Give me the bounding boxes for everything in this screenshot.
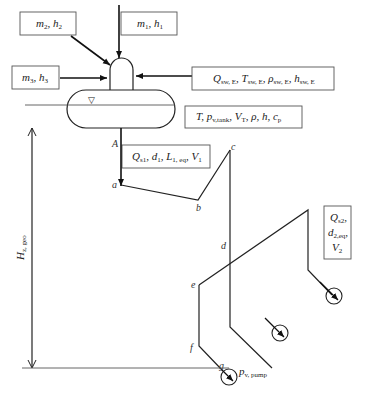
tank (67, 90, 175, 128)
tank-params-box: T, pv,tank, VT, ρ, h, cp (185, 106, 302, 128)
outlet-branch-upper (320, 282, 342, 304)
point-label-d: d (221, 240, 227, 251)
water-level-symbol: ▽ (88, 95, 95, 105)
outlet-branch-d (265, 318, 288, 341)
pipe-e-d-branch (199, 210, 332, 295)
point-label-a: a (112, 179, 117, 190)
pipe-e-f-g (199, 285, 222, 370)
tank-dome (110, 58, 133, 90)
inlet-box-m2: m2, h2 (20, 12, 76, 35)
svg-text:T, pv,tank, VT, ρ, h, cp: T, pv,tank, VT, ρ, h, cp (196, 110, 282, 124)
seawater-params-box: Qsw, E, Tsw, E, ρsw, E, hsw, E (192, 67, 334, 90)
outlet-pump-g (221, 369, 237, 385)
arrow-m2 (71, 36, 110, 65)
point-label-c: c (231, 141, 236, 152)
inlet-box-m3: m3, h3 (12, 66, 59, 89)
point-label-g: g (219, 360, 224, 371)
pipe1-params-box: Qs1, d1, L1, eq, V1 (122, 145, 210, 168)
point-label-e: e (191, 279, 196, 290)
pipe2-params-box: Qs2, d2,eq, V2 (324, 206, 351, 259)
inlet-box-m1: m1, h1 (121, 12, 177, 35)
pump-pressure-label: pv, pump (238, 365, 267, 379)
point-label-f: f (190, 342, 194, 353)
height-label: Hz, geo (14, 235, 28, 261)
point-label-A: A (111, 138, 119, 149)
point-label-b: b (196, 202, 201, 213)
piping-diagram: m2, h2 m1, h1 m3, h3 Qsw, E, Tsw, E, ρsw… (0, 0, 366, 396)
